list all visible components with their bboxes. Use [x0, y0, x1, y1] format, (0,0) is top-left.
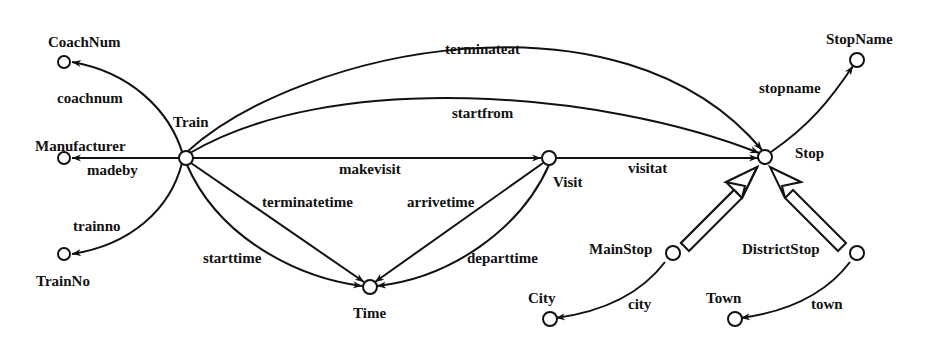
node-town	[728, 312, 742, 326]
label-node-time: Time	[353, 305, 386, 321]
node-time	[363, 280, 377, 294]
node-stopname	[850, 53, 864, 67]
label-edge-visitat: visitat	[628, 160, 667, 176]
label-node-train: Train	[173, 114, 209, 130]
edge-stopname	[771, 66, 853, 152]
label-edge-arrivetime: arrivetime	[407, 194, 475, 210]
label-node-districtstop: DistrictStop	[742, 241, 820, 257]
label-node-manufacturer: Manufacturer	[35, 138, 126, 154]
edge-starttime	[187, 165, 362, 286]
label-edge-makevisit: makevisit	[339, 161, 401, 177]
label-node-trainno: TrainNo	[36, 273, 90, 289]
label-node-stop: Stop	[795, 145, 824, 161]
node-mainstop	[666, 246, 680, 260]
label-edge-starttime: starttime	[203, 250, 262, 266]
label-node-stopname: StopName	[826, 31, 893, 47]
label-edge-startfrom: startfrom	[452, 105, 514, 121]
label-edge-stopname: stopname	[759, 80, 821, 96]
label-edge-departtime: departtime	[467, 250, 538, 266]
label-node-mainstop: MainStop	[589, 241, 652, 257]
node-train	[179, 151, 193, 165]
node-stop	[758, 150, 772, 164]
node-visit	[542, 151, 556, 165]
schema-diagram: CoachNum Manufacturer TrainNo Train Time…	[0, 0, 941, 353]
label-node-town: Town	[706, 290, 742, 306]
isa-arrow-mainstop-body	[681, 190, 742, 251]
label-edge-trainno: trainno	[73, 218, 121, 234]
node-districtstop	[850, 246, 864, 260]
edge-departtime	[377, 165, 549, 286]
node-city	[543, 312, 557, 326]
label-edge-terminatetime: terminatetime	[262, 194, 353, 210]
label-edge-terminateat: terminateat	[445, 41, 520, 57]
label-edge-coachnum: coachnum	[57, 90, 123, 106]
node-trainno	[58, 248, 70, 260]
label-edge-madeby: madeby	[87, 162, 138, 178]
label-edge-city: city	[628, 296, 652, 312]
label-node-coachnum: CoachNum	[48, 34, 121, 50]
label-node-visit: Visit	[553, 174, 582, 190]
label-node-city: City	[528, 290, 556, 306]
node-coachnum	[58, 56, 70, 68]
label-edge-town: town	[811, 296, 843, 312]
